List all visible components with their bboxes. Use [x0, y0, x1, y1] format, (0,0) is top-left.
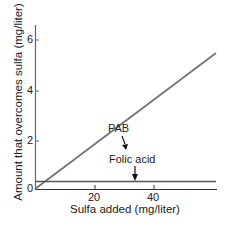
folic-acid-arrow-icon	[132, 174, 138, 181]
pab-annotation: PAB	[108, 122, 129, 134]
series-pab	[35, 53, 216, 189]
y-tick-2: 2	[27, 134, 33, 146]
y-axis-label: Amount that overcomes sulfa (mg/liter)	[12, 0, 24, 213]
y-tick-6: 6	[27, 33, 33, 45]
x-tick-40: 40	[147, 191, 159, 203]
y-tick-0: 0	[27, 182, 33, 194]
pab-arrow-icon	[122, 144, 128, 150]
chart-plot	[0, 0, 227, 225]
y-tick-4: 4	[27, 84, 33, 96]
folic-acid-annotation: Folic acid	[109, 153, 155, 165]
x-tick-20: 20	[88, 191, 100, 203]
x-axis-label: Sulfa added (mg/liter)	[70, 203, 180, 215]
